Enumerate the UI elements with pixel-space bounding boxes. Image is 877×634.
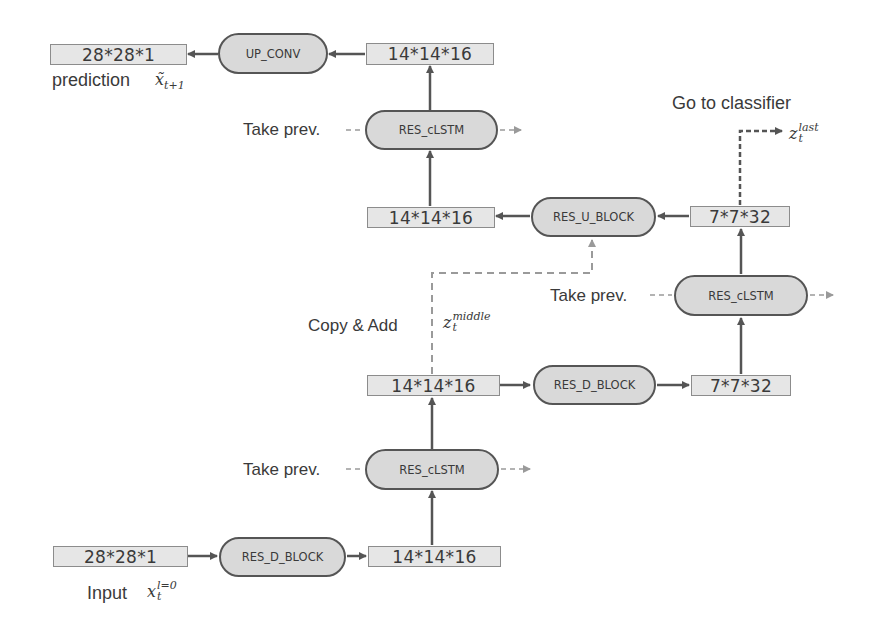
math-z-middle-var: z: [443, 313, 451, 332]
label-input: Input: [87, 583, 127, 604]
dash-skip-connection: [432, 240, 592, 374]
label-take-prev-top: Take prev.: [243, 120, 320, 140]
block-res-clstm-bottom: RES_cLSTM: [365, 449, 499, 490]
math-z-middle-sub: t: [452, 322, 490, 333]
block-up-conv: UP_CONV: [218, 33, 328, 74]
label-go-to-classifier: Go to classifier: [672, 93, 791, 114]
math-prediction: x̃t+1: [155, 70, 185, 92]
tensor-prediction-output: 28*28*1: [50, 44, 187, 65]
block-res-u-block: RES_U_BLOCK: [531, 197, 656, 237]
math-z-last-var: z: [789, 124, 797, 143]
math-z-last: z last t: [789, 122, 819, 144]
tensor-middle-left: 14*14*16: [367, 375, 500, 396]
math-prediction-var: x̃: [155, 70, 164, 89]
dash-to-classifier: [740, 131, 782, 205]
math-input-var: x: [147, 582, 156, 601]
tensor-top-right: 7*7*32: [690, 206, 790, 227]
block-res-d-block-middle: RES_D_BLOCK: [533, 365, 656, 405]
label-copy-add: Copy & Add: [308, 316, 398, 336]
block-res-clstm-right: RES_cLSTM: [674, 275, 808, 316]
label-take-prev-bottom: Take prev.: [243, 460, 320, 480]
math-input: x l=0 t: [147, 580, 177, 602]
tensor-input: 28*28*1: [53, 546, 188, 567]
tensor-middle-right: 7*7*32: [691, 375, 791, 396]
math-input-sub: t: [157, 591, 177, 602]
math-prediction-sub: t+1: [164, 79, 185, 92]
label-prediction-text: prediction: [52, 70, 130, 90]
math-z-last-sub: t: [798, 133, 818, 144]
tensor-upsampled: 14*14*16: [367, 207, 495, 228]
tensor-top-input: 14*14*16: [366, 43, 494, 65]
tensor-bottom-right: 14*14*16: [368, 546, 501, 567]
label-prediction: prediction: [52, 70, 130, 91]
network-diagram: 28*28*1 14*14*16 14*14*16 7*7*32 14*14*1…: [0, 0, 877, 634]
math-z-middle: z middle t: [443, 311, 491, 333]
block-res-d-block-bottom: RES_D_BLOCK: [219, 537, 346, 577]
math-z-middle-sup: middle: [452, 311, 490, 322]
block-res-clstm-top: RES_cLSTM: [365, 110, 498, 150]
label-take-prev-right: Take prev.: [550, 286, 627, 306]
